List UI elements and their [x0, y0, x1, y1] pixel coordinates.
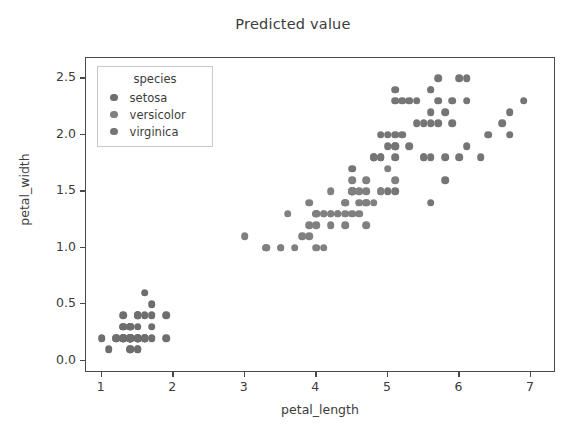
- data-point: [320, 244, 328, 252]
- legend-item-versicolor[interactable]: versicolor: [104, 106, 206, 123]
- data-point: [341, 199, 349, 207]
- data-point: [377, 154, 385, 162]
- data-point: [327, 187, 335, 195]
- data-point: [413, 97, 421, 105]
- data-point: [305, 199, 313, 207]
- data-point: [463, 142, 471, 150]
- legend-item-setosa[interactable]: setosa: [104, 89, 206, 106]
- data-point: [391, 176, 399, 184]
- data-point: [413, 120, 421, 128]
- data-point: [363, 176, 371, 184]
- page-title: Predicted value: [0, 16, 586, 32]
- y-tick-mark: [80, 303, 85, 304]
- data-point: [406, 142, 414, 150]
- data-point: [320, 210, 328, 218]
- x-tick-label: 1: [86, 379, 116, 394]
- x-tick-mark: [172, 372, 173, 377]
- y-tick-label: 2.5: [36, 69, 76, 84]
- data-point: [291, 244, 299, 252]
- x-tick-label: 3: [229, 379, 259, 394]
- data-point: [391, 187, 399, 195]
- data-point: [148, 312, 156, 320]
- y-axis-label: petal_width: [17, 130, 32, 250]
- data-point: [463, 75, 471, 83]
- data-point: [441, 108, 449, 116]
- data-point: [134, 345, 142, 353]
- y-tick-mark: [80, 77, 85, 78]
- data-point: [127, 323, 135, 331]
- y-tick-label: 0.0: [36, 352, 76, 367]
- data-point: [484, 131, 492, 139]
- data-point: [141, 334, 149, 342]
- data-point: [363, 221, 371, 229]
- x-tick-label: 7: [515, 379, 545, 394]
- data-point: [148, 300, 156, 308]
- data-point: [434, 120, 442, 128]
- data-point: [506, 108, 514, 116]
- x-tick-mark: [244, 372, 245, 377]
- legend-marker-icon: [110, 94, 118, 102]
- legend-marker-icon: [110, 128, 118, 136]
- y-tick-label: 1.5: [36, 182, 76, 197]
- legend-item-virginica[interactable]: virginica: [104, 123, 206, 140]
- data-point: [334, 210, 342, 218]
- data-point: [448, 97, 456, 105]
- data-point: [420, 154, 428, 162]
- data-point: [384, 131, 392, 139]
- data-point: [162, 312, 170, 320]
- y-tick-mark: [80, 247, 85, 248]
- data-point: [277, 244, 285, 252]
- data-point: [148, 323, 156, 331]
- data-point: [284, 210, 292, 218]
- data-point: [348, 165, 356, 173]
- x-tick-label: 2: [157, 379, 187, 394]
- y-tick-mark: [80, 134, 85, 135]
- data-point: [105, 345, 113, 353]
- data-point: [355, 199, 363, 207]
- legend-box: species setosaversicolorvirginica: [97, 66, 213, 147]
- data-point: [506, 131, 514, 139]
- scatter-plot-figure: Predicted value 1234567 0.00.51.01.52.02…: [0, 0, 586, 436]
- data-point: [370, 199, 378, 207]
- x-tick-label: 4: [300, 379, 330, 394]
- data-point: [148, 334, 156, 342]
- x-tick-label: 5: [372, 379, 402, 394]
- data-point: [134, 323, 142, 331]
- data-point: [313, 221, 321, 229]
- y-tick-label: 0.5: [36, 295, 76, 310]
- data-point: [127, 345, 135, 353]
- data-point: [348, 187, 356, 195]
- data-point: [384, 142, 392, 150]
- x-tick-mark: [387, 372, 388, 377]
- data-point: [398, 131, 406, 139]
- data-point: [427, 86, 435, 94]
- data-point: [134, 334, 142, 342]
- y-tick-mark: [80, 360, 85, 361]
- legend-marker-icon: [110, 111, 118, 119]
- data-point: [355, 210, 363, 218]
- data-point: [127, 334, 135, 342]
- data-point: [363, 187, 371, 195]
- data-point: [384, 165, 392, 173]
- y-tick-mark: [80, 190, 85, 191]
- data-point: [348, 176, 356, 184]
- data-point: [241, 233, 249, 241]
- data-point: [141, 312, 149, 320]
- data-point: [427, 199, 435, 207]
- data-point: [377, 131, 385, 139]
- x-tick-mark: [101, 372, 102, 377]
- data-point: [448, 120, 456, 128]
- data-point: [427, 108, 435, 116]
- data-point: [441, 154, 449, 162]
- data-point: [370, 154, 378, 162]
- data-point: [327, 221, 335, 229]
- legend-item-label: virginica: [130, 125, 179, 139]
- x-axis-label: petal_length: [85, 402, 555, 417]
- data-point: [391, 86, 399, 94]
- data-point: [162, 334, 170, 342]
- legend-item-label: versicolor: [130, 108, 186, 122]
- data-point: [298, 233, 306, 241]
- data-point: [391, 142, 399, 150]
- data-point: [463, 97, 471, 105]
- data-point: [434, 75, 442, 83]
